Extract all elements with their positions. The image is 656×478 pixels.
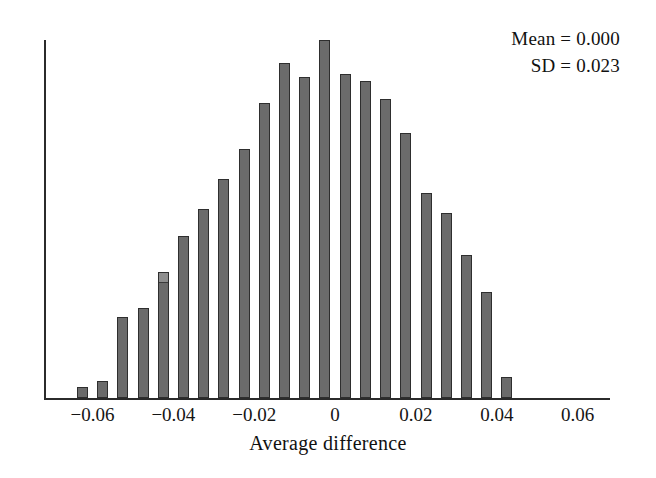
histogram-bar — [158, 272, 169, 398]
histogram-bar — [299, 77, 310, 398]
x-tick-label: −0.06 — [71, 404, 115, 426]
histogram-bar — [97, 381, 108, 398]
histogram-bar — [400, 133, 411, 398]
x-axis-title: Average difference — [0, 432, 656, 455]
x-tick-label: 0.02 — [399, 404, 432, 426]
x-tick-label: 0.04 — [480, 404, 513, 426]
histogram-bar — [218, 179, 229, 398]
histogram-bar — [178, 236, 189, 398]
histogram-bar — [138, 308, 149, 398]
histogram-bar — [319, 40, 330, 398]
histogram-bar — [77, 387, 88, 398]
x-tick-label: 0 — [330, 404, 340, 426]
histogram-bar — [117, 317, 128, 398]
x-tick-label: −0.02 — [232, 404, 276, 426]
x-tick-label: −0.04 — [151, 404, 195, 426]
plot-area — [44, 40, 610, 398]
histogram-bar — [501, 377, 512, 398]
bar-scan-artifact — [159, 273, 168, 283]
histogram-bar — [481, 292, 492, 398]
x-axis-tick-labels: −0.06−0.04−0.0200.020.040.06 — [44, 404, 610, 430]
x-axis-line — [44, 398, 610, 400]
histogram-bar — [340, 74, 351, 398]
histogram-bar — [239, 149, 250, 398]
x-tick-label: 0.06 — [561, 404, 594, 426]
histogram-bar — [198, 209, 209, 398]
histogram-bar — [441, 213, 452, 398]
histogram-bar — [380, 99, 391, 398]
histogram-bar — [461, 255, 472, 398]
histogram-bar — [360, 81, 371, 398]
histogram-bar — [421, 193, 432, 398]
histogram-figure: Mean = 0.000 SD = 0.023 −0.06−0.04−0.020… — [0, 0, 656, 478]
histogram-bar — [279, 63, 290, 398]
bar-series — [44, 40, 610, 398]
histogram-bar — [259, 103, 270, 398]
